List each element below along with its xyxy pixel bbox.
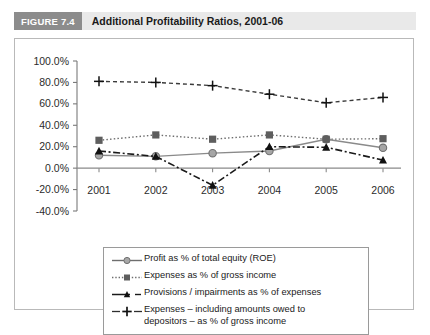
- series-line-plus: [99, 81, 383, 102]
- x-tick-label: 2006: [371, 184, 395, 196]
- legend-item-expenses-depositors: Expenses – including amounts owed todepo…: [110, 304, 362, 327]
- data-point-square: [379, 135, 386, 142]
- figure-title: Additional Profitability Ratios, 2001-06: [82, 12, 416, 30]
- y-tick-label: -20.0%: [36, 183, 69, 195]
- chart-frame: 100.0%80.0%60.0%40.0%20.0%0.0%-20.0%-40.…: [14, 38, 414, 310]
- data-point-square: [323, 136, 330, 143]
- y-tick-label: -40.0%: [36, 205, 69, 217]
- data-point-triangle: [265, 143, 273, 151]
- y-tick-label: 20.0%: [39, 140, 69, 152]
- data-point-circle: [209, 149, 216, 156]
- legend-label-roe: Profit as % of total equity (ROE): [144, 253, 276, 265]
- x-tick-label: 2005: [315, 184, 339, 196]
- legend-label-expenses-depositors: Expenses – including amounts owed todepo…: [144, 304, 305, 327]
- data-point-square: [209, 136, 216, 143]
- series-line-square: [99, 135, 383, 140]
- legend-label-provisions: Provisions / impairments as % of expense…: [144, 287, 321, 299]
- legend-item-roe: Profit as % of total equity (ROE): [110, 253, 362, 266]
- series-line-circle: [99, 139, 383, 156]
- legend-label-line1: Expenses – including amounts owed to: [144, 304, 305, 314]
- figure-header: FIGURE 7.4 Additional Profitability Rati…: [14, 12, 416, 30]
- x-tick-label: 2002: [144, 184, 168, 196]
- y-tick-label: 40.0%: [39, 119, 69, 131]
- y-tick-label: 80.0%: [39, 76, 69, 88]
- data-point-square: [152, 131, 159, 138]
- chart-legend: Profit as % of total equity (ROE) Expens…: [103, 247, 369, 335]
- legend-item-provisions: Provisions / impairments as % of expense…: [110, 287, 362, 300]
- legend-label-line2: depositors – as % of gross income: [144, 316, 305, 328]
- y-tick-label: 60.0%: [39, 97, 69, 109]
- data-point-square: [95, 137, 102, 144]
- y-tick-label: 100.0%: [33, 55, 69, 67]
- legend-label-expenses-gross: Expenses as % of gross income: [144, 270, 276, 282]
- x-tick-label: 2004: [258, 184, 282, 196]
- data-point-square: [266, 131, 273, 138]
- plus-dashed-key: [110, 304, 144, 317]
- legend-item-expenses-gross: Expenses as % of gross income: [110, 270, 362, 283]
- square-dotted-key: [110, 270, 144, 283]
- triangle-dashdot-key: [110, 287, 144, 300]
- y-tick-label: 0.0%: [45, 162, 69, 174]
- data-point-circle: [379, 144, 386, 151]
- x-tick-label: 2001: [87, 184, 111, 196]
- circle-solid-key: [110, 253, 144, 266]
- figure-number-badge: FIGURE 7.4: [14, 12, 82, 30]
